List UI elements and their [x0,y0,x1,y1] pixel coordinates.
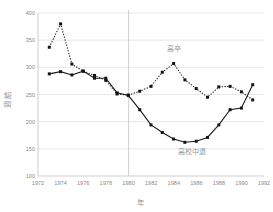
data-point-marker [161,131,164,134]
x-tick-label: 1988 [213,180,225,186]
data-point-marker [206,136,209,139]
data-point-marker [138,108,141,111]
data-point-marker [59,22,62,25]
x-tick-label: 1972 [32,180,44,186]
series-annotation-upper: 高卒 [167,44,181,53]
y-axis-title: 週 給 [3,91,12,108]
data-point-marker [116,91,119,94]
data-point-marker [206,96,209,99]
y-tick-label: 100 [26,173,35,179]
data-point-marker [240,90,243,93]
data-point-marker [161,71,164,74]
y-tick-label: 400 [26,10,35,16]
data-point-marker [172,138,175,141]
data-point-marker [217,123,220,126]
x-tick-label: 1978 [100,180,112,186]
data-point-marker [251,83,254,86]
x-tick-label: 1990 [235,180,247,186]
y-tick-label: 250 [26,92,35,98]
data-point-marker [195,87,198,90]
y-tick-label: 350 [26,37,35,43]
data-point-marker [172,62,175,65]
data-point-marker [127,94,130,97]
series-line [49,71,252,142]
x-tick-label: 1986 [190,180,202,186]
x-axis-title: 年 [137,198,145,207]
x-tick-label: 1976 [77,180,89,186]
data-point-marker [150,123,153,126]
line-chart: 400 350 300 250 200 150 100 1972 1974 19… [0,0,273,212]
data-point-marker [59,70,62,73]
y-tick-label: 150 [26,146,35,152]
x-tick-label: 1982 [145,180,157,186]
y-gridlines [38,13,264,149]
data-point-marker [93,77,96,80]
data-point-marker [150,85,153,88]
data-point-marker [48,46,51,49]
y-tick-label: 200 [26,119,35,125]
data-point-marker [70,73,73,76]
data-point-marker [217,85,220,88]
data-point-marker [183,141,186,144]
data-point-marker [138,90,141,93]
chart-container: 400 350 300 250 200 150 100 1972 1974 19… [0,0,273,212]
data-point-marker [240,107,243,110]
y-tick-label: 300 [26,64,35,70]
data-point-marker [229,85,232,88]
x-tick-label: 1974 [54,180,66,186]
data-point-marker [93,74,96,77]
x-tick-label: 1980 [122,180,134,186]
data-point-marker [251,98,254,101]
data-point-marker [82,70,85,73]
data-point-marker [195,140,198,143]
data-point-marker [229,108,232,111]
series-annotation-lower: 高校中退 [178,147,206,156]
x-tick-label: 1992 [258,180,270,186]
series-line [49,24,252,100]
series-lower [48,70,254,144]
data-point-marker [48,72,51,75]
series-upper [48,22,254,101]
data-point-marker [183,78,186,81]
series-layer [48,22,254,143]
data-point-marker [70,63,73,66]
x-tick-label: 1984 [168,180,180,186]
data-point-marker [104,77,107,80]
